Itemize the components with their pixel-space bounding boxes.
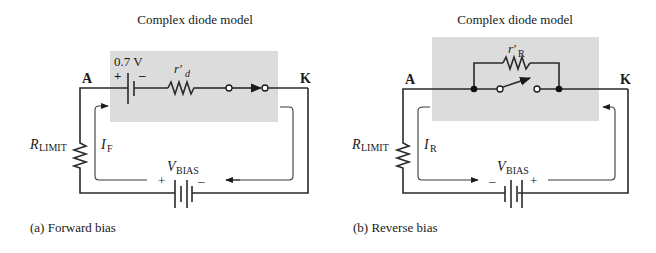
rlimit-label-a: R <box>29 137 39 152</box>
rlimit-sub-b: LIMIT <box>361 142 389 153</box>
cathode-label-b: K <box>620 72 631 87</box>
current-ir-sub: R <box>430 143 437 154</box>
rlimit-label-b: R <box>351 137 361 152</box>
anode-label-b: A <box>405 72 416 87</box>
rlimit-sub-a: LIMIT <box>39 142 67 153</box>
rr-sub: R <box>518 48 525 59</box>
panel-b-title: Complex diode model <box>457 12 573 27</box>
diode-bias-diagram: Complex diode model 0.7 V + – r′ d <box>0 0 656 253</box>
cathode-label-a: K <box>300 71 311 86</box>
barrier-plus-sign: + <box>114 68 121 83</box>
current-if-label: I <box>100 137 107 152</box>
barrier-minus-sign: – <box>138 67 146 82</box>
vbias-plus-b: + <box>530 173 537 188</box>
panel-forward-bias: Complex diode model 0.7 V + – r′ d <box>29 12 311 235</box>
current-if-sub: F <box>107 143 113 154</box>
junction-dot-right <box>556 86 563 93</box>
vbias-minus-b: – <box>488 173 496 188</box>
caption-b: (b) Reverse bias <box>353 220 437 235</box>
rlimit-resistor-icon-a <box>74 140 86 170</box>
caption-a: (a) Forward bias <box>30 220 116 235</box>
vbias-battery-b <box>505 180 522 208</box>
rlimit-resistor-icon-b <box>397 140 409 170</box>
panel-a-title: Complex diode model <box>137 12 253 27</box>
rr-label: r′ <box>508 41 516 56</box>
vbias-sub-a: BIAS <box>176 165 199 176</box>
vbias-sub-b: BIAS <box>506 165 529 176</box>
junction-dot-left <box>471 86 478 93</box>
current-ir-label: I <box>423 137 430 152</box>
anode-label-a: A <box>82 71 93 86</box>
vbias-plus-a: + <box>158 173 165 188</box>
vbias-battery-a <box>175 180 192 208</box>
panel-reverse-bias: Complex diode model r′ R A K R <box>351 12 631 235</box>
vbias-minus-a: – <box>197 173 205 188</box>
rd-label: r′ <box>174 61 182 76</box>
